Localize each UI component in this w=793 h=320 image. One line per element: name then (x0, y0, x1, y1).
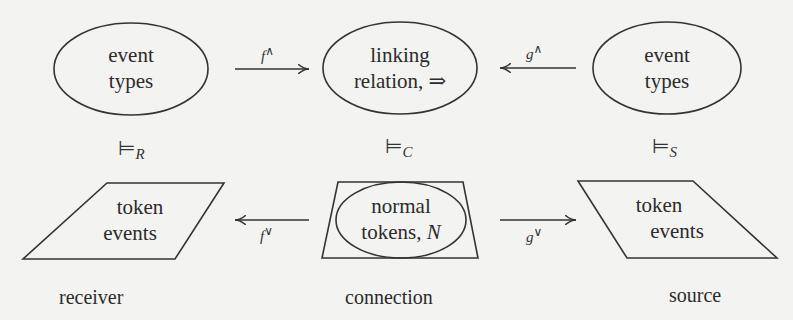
source-types-line-2: types (617, 68, 717, 94)
turnstile-icon: ⊨ (118, 136, 135, 160)
connection-types-label: linking relation, ⇒ (330, 42, 470, 94)
g-up-symbol: g (526, 46, 534, 62)
connection-types-line-1: linking (330, 42, 470, 68)
source-role-label: source (669, 284, 721, 307)
g-up-label: g∧ (526, 42, 542, 63)
receiver-satisfaction-relation: ⊨R (118, 136, 145, 160)
f-down-superscript: ∨ (264, 224, 273, 238)
connection-role-label: connection (345, 286, 433, 309)
connection-tokens-label: normal tokens, N (336, 193, 466, 245)
turnstile-icon: ⊨ (652, 134, 669, 158)
connection-satisfaction-relation: ⊨C (385, 134, 412, 158)
receiver-types-label: event types (81, 42, 181, 94)
receiver-tokens-line-2: events (75, 220, 185, 246)
connection-types-line-2: relation, ⇒ (330, 68, 470, 94)
connection-tokens-text: tokens, (361, 220, 426, 244)
f-down-label: f∨ (260, 224, 273, 245)
receiver-relation-subscript: R (135, 146, 144, 162)
connection-relation-subscript: C (402, 144, 412, 160)
connection-tokens-line-2: tokens, N (336, 219, 466, 245)
f-up-superscript: ∧ (265, 44, 274, 58)
source-relation-subscript: S (669, 144, 677, 160)
normal-tokens-symbol: N (427, 220, 441, 244)
source-types-label: event types (617, 42, 717, 94)
receiver-types-line-1: event (81, 42, 181, 68)
channel-diagram: event types linking relation, ⇒ event ty… (0, 0, 793, 320)
source-tokens-label: token events (615, 192, 725, 244)
g-down-superscript: ∨ (534, 225, 543, 239)
receiver-role-label: receiver (59, 286, 123, 309)
connection-tokens-line-1: normal (336, 193, 466, 219)
receiver-tokens-line-1: token (75, 194, 185, 220)
source-tokens-line-1: token (615, 192, 725, 218)
source-tokens-line-2: events (615, 218, 725, 244)
turnstile-icon: ⊨ (385, 134, 402, 158)
source-satisfaction-relation: ⊨S (652, 134, 677, 158)
g-down-symbol: g (526, 229, 534, 245)
g-up-superscript: ∧ (534, 42, 543, 56)
receiver-tokens-label: token events (75, 194, 185, 246)
receiver-types-line-2: types (81, 68, 181, 94)
f-up-label: f∧ (261, 44, 274, 65)
g-down-label: g∨ (526, 225, 542, 246)
source-types-line-1: event (617, 42, 717, 68)
